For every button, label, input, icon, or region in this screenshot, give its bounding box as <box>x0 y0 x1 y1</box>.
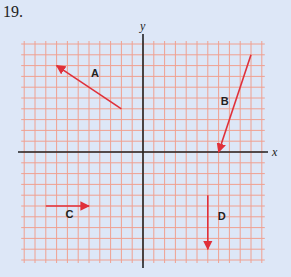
y-axis-label: y <box>139 19 146 33</box>
vector-label-a: A <box>91 67 99 79</box>
vector-label-d: D <box>218 210 226 222</box>
coordinate-grid: x y ABCD <box>0 0 291 277</box>
vector-label-c: C <box>65 208 73 220</box>
x-axis-label: x <box>271 145 278 159</box>
vector-label-b: B <box>221 95 229 107</box>
